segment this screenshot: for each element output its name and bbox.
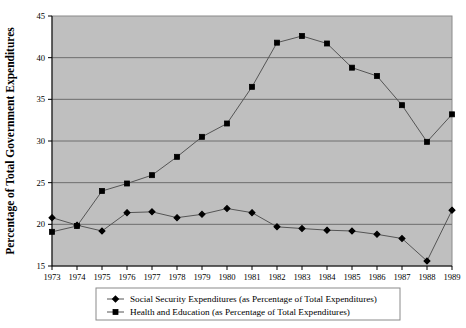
x-tick-label: 1978	[168, 272, 185, 282]
x-tick-label: 1988	[418, 272, 435, 282]
x-tick-label: 1985	[343, 272, 360, 282]
x-tick-label: 1987	[393, 272, 411, 282]
data-point-marker	[175, 154, 180, 159]
x-tick-label: 1977	[143, 272, 161, 282]
data-point-marker	[250, 84, 255, 89]
x-tick-label: 1982	[268, 272, 285, 282]
x-tick-label: 1980	[218, 272, 235, 282]
x-tick-label: 1989	[443, 272, 460, 282]
data-point-marker	[300, 34, 305, 39]
data-point-marker	[150, 173, 155, 178]
x-tick-label: 1974	[68, 272, 86, 282]
data-point-marker	[50, 229, 55, 234]
data-point-marker	[125, 181, 130, 186]
data-point-marker	[375, 74, 380, 79]
x-tick-label: 1976	[118, 272, 136, 282]
data-point-marker	[225, 121, 230, 126]
data-point-marker	[325, 41, 330, 46]
y-tick-label: 25	[36, 178, 45, 188]
data-point-marker	[275, 40, 280, 45]
y-tick-label: 30	[36, 136, 45, 146]
data-point-marker	[113, 296, 119, 302]
data-point-marker	[350, 65, 355, 70]
data-point-marker	[75, 224, 80, 229]
data-point-marker	[200, 134, 205, 139]
y-tick-label: 20	[36, 219, 45, 229]
data-point-marker	[450, 112, 455, 117]
data-point-marker	[400, 103, 405, 108]
data-point-marker	[100, 189, 105, 194]
legend-label-1: Social Security Expenditures (as Percent…	[130, 294, 377, 304]
y-axis-title: Percentage of Total Government Expenditu…	[4, 27, 17, 255]
y-tick-label: 15	[36, 261, 45, 271]
x-tick-label: 1975	[93, 272, 110, 282]
x-tick-label: 1973	[43, 272, 60, 282]
x-tick-label: 1983	[293, 272, 310, 282]
y-tick-label: 40	[36, 53, 45, 63]
x-tick-label: 1981	[243, 272, 260, 282]
x-tick-labels-group: 1973197419751976197719781979198019811982…	[43, 266, 460, 282]
x-tick-label: 1984	[318, 272, 336, 282]
x-tick-label: 1986	[368, 272, 386, 282]
y-tick-label: 35	[36, 94, 45, 104]
chart-container: 15202530354045 1973197419751976197719781…	[0, 0, 466, 328]
legend: Social Security Expenditures (as Percent…	[96, 288, 400, 320]
data-point-marker	[113, 310, 118, 315]
x-tick-label: 1979	[193, 272, 210, 282]
data-point-marker	[425, 139, 430, 144]
legend-label-2: Health and Education (as Percentage of T…	[130, 307, 350, 317]
y-tick-label: 45	[36, 11, 45, 21]
line-chart: 15202530354045 1973197419751976197719781…	[0, 0, 466, 328]
